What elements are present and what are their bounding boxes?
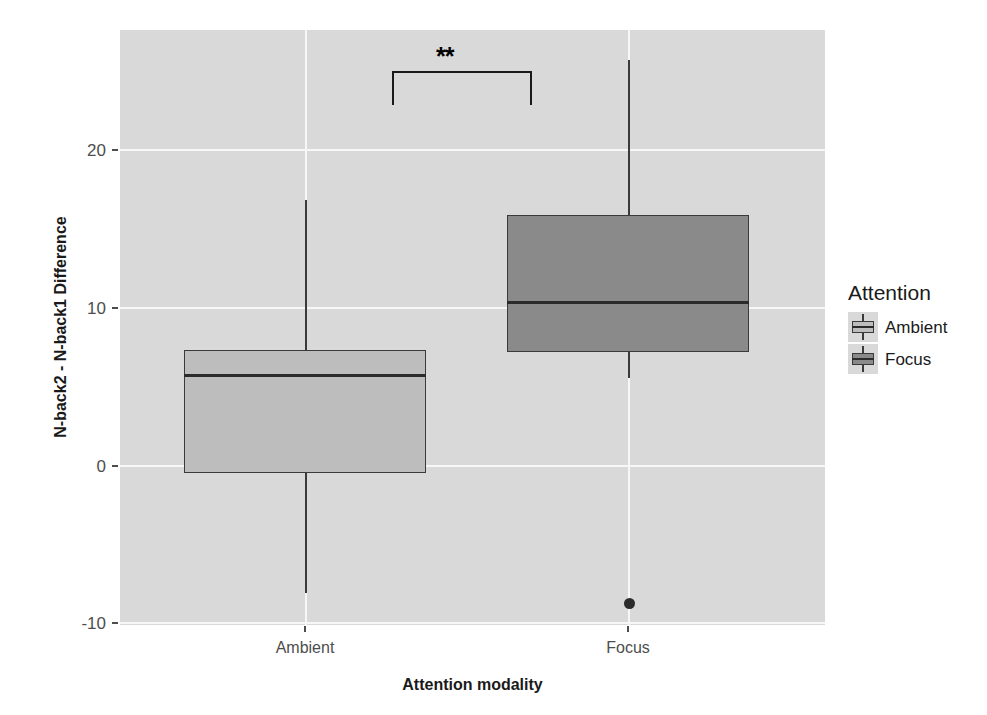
y-tick-mark-10 (112, 307, 118, 309)
y-axis-title: N-back2 - N-back1 Difference (52, 162, 70, 492)
median-focus (507, 301, 749, 304)
legend-key-focus (848, 344, 878, 374)
plot-panel: ** (120, 30, 825, 625)
y-tick-label-20: 20 (66, 142, 106, 159)
y-tick-mark-minus-10 (112, 622, 118, 624)
bracket-right-leg (530, 71, 532, 105)
whisker-upper-focus (628, 60, 630, 215)
gridline-y-m10 (120, 622, 825, 624)
y-tick-group-m10: -10 (58, 615, 106, 632)
bracket-left-leg (392, 71, 394, 105)
whisker-lower-focus (628, 352, 630, 378)
significance-label: ** (436, 44, 453, 69)
y-tick-group-0: 0 (66, 458, 106, 475)
legend-key-median (852, 326, 874, 328)
gridline-y-20 (120, 149, 825, 151)
whisker-upper-ambient (305, 200, 307, 352)
y-tick-mark-20 (112, 149, 118, 151)
y-tick-label-0: 0 (66, 458, 106, 475)
whisker-lower-ambient (305, 473, 307, 593)
median-ambient (184, 374, 426, 377)
legend-key-whisker-bottom (862, 332, 864, 340)
x-tick-label-ambient: Ambient (245, 640, 365, 656)
outlier-point-focus (624, 598, 635, 609)
legend: Attention Ambient Focus (848, 282, 983, 376)
y-tick-label-minus-10: -10 (58, 615, 106, 632)
y-tick-mark-0 (112, 465, 118, 467)
y-tick-group-20: 20 (66, 142, 106, 159)
box-focus (507, 215, 749, 352)
y-tick-label-10: 10 (66, 300, 106, 317)
legend-label-focus: Focus (885, 351, 931, 368)
chart-root: ** 20 10 0 -10 N-back2 - N-back1 Differe… (0, 0, 987, 715)
legend-key-whisker-bottom (862, 364, 864, 372)
x-tick-mark-focus (627, 626, 629, 632)
legend-label-ambient: Ambient (885, 319, 947, 336)
legend-item-focus[interactable]: Focus (848, 344, 983, 374)
box-ambient (184, 350, 426, 473)
legend-key-ambient (848, 312, 878, 342)
y-tick-group-10: 10 (66, 300, 106, 317)
legend-title: Attention (848, 282, 983, 303)
x-tick-mark-ambient (304, 626, 306, 632)
x-axis-title: Attention modality (120, 676, 825, 694)
x-tick-label-focus: Focus (568, 640, 688, 656)
bracket-top-line (392, 71, 532, 73)
legend-key-median (852, 358, 874, 360)
legend-item-ambient[interactable]: Ambient (848, 312, 983, 342)
